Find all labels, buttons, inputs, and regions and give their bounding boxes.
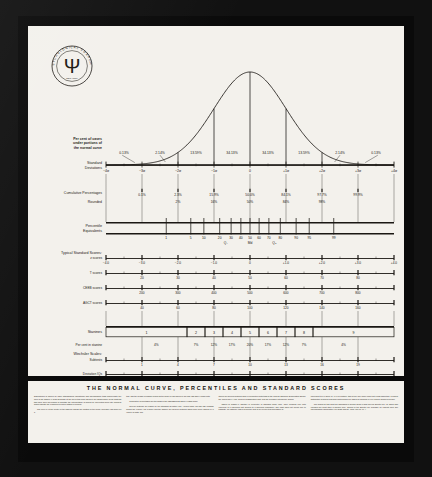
sd-tick-label: +2σ <box>319 169 326 173</box>
CEEB_scores-tick-label: 200 <box>139 291 145 295</box>
percentile-tick-label: 95 <box>307 236 311 240</box>
z_scores-tick-label: +4.0 <box>391 261 398 265</box>
footer-paragraph: The scales on this chart are discussed i… <box>311 403 398 411</box>
percentile-tick-label: 30 <box>229 236 233 240</box>
AGCT_scores-tick-label: 120 <box>283 306 289 310</box>
stanines-row-label: Stanines <box>88 330 103 334</box>
CEEB_scores-tick-label: 700 <box>319 291 325 295</box>
pct-band-label: 2.14% <box>155 151 165 155</box>
T_scores-tick-label: 50 <box>248 276 252 280</box>
normal-curve-chart: THE PSYCHOLOGICAL CORPORATIONΨ· NEW YORK… <box>28 26 404 376</box>
pct-band-label: 34.13% <box>226 151 238 155</box>
pct-band-label: 13.59% <box>190 151 202 155</box>
stanine-box-label: 2 <box>195 331 197 335</box>
T_scores-tick-label: 30 <box>176 276 180 280</box>
z_scores-tick-label: −2.0 <box>175 261 182 265</box>
row-label: Rounded <box>88 200 102 204</box>
stanine-percent-label: 7% <box>302 343 307 347</box>
stanine-box-label: 1 <box>146 331 148 335</box>
percentile-tick-label: 10 <box>202 236 206 240</box>
sd-tick-label: −4σ <box>103 169 110 173</box>
z_scores-tick-label: +2.0 <box>319 261 326 265</box>
z_scores-tick-label: −1.0 <box>211 261 218 265</box>
rounded-tick-label: 98% <box>319 200 326 204</box>
percentile-tick-label: 5 <box>190 236 192 240</box>
AGCT_scores-tick-label: 140 <box>319 306 325 310</box>
footer-paragraph: others are special systems used in conne… <box>219 395 306 401</box>
percentile-tick-label: 60 <box>257 236 261 240</box>
percentile-tick-label: 80 <box>278 236 282 240</box>
pct-band-label: 34.13% <box>262 151 274 155</box>
wechsler_subtests-tick-label: 1 <box>141 363 143 367</box>
stanine-box-label: 3 <box>213 331 215 335</box>
T_scores-row-label: T scores <box>90 271 103 275</box>
sd-tick-label: +1σ <box>283 169 290 173</box>
cum-tick-label: 2.3% <box>174 193 182 197</box>
footer-paragraph: The zero (0) at the center of the baseli… <box>34 408 121 414</box>
sd-tick-label: +4σ <box>391 169 398 173</box>
logo-established: · NEW YORK · <box>65 77 79 79</box>
footer-column: equivalent to a z-score of +1.0 on anoth… <box>311 395 398 416</box>
wechsler_subtests-row-label: Subtests <box>90 358 103 362</box>
cum-tick-label: 97.7% <box>317 193 326 197</box>
stanine-percent-label: 4% <box>154 343 159 347</box>
percentile-tick-label: 20 <box>218 236 222 240</box>
rounded-tick-label: 16% <box>211 200 218 204</box>
cum-tick-label: 99.9% <box>353 193 362 197</box>
cum-tick-label: 84.1% <box>281 193 290 197</box>
percentile-quartile-label: Md <box>248 241 253 245</box>
pct-band-label: 0.13% <box>371 151 381 155</box>
wechsler_subtests-tick-label: 13 <box>284 363 288 367</box>
footer-paragraph: Tables of NORMAL whether in percentile o… <box>219 403 306 411</box>
typical-standard-scores-header: Typical Standard Scores: <box>61 251 102 255</box>
stanine-box-label: 9 <box>353 331 355 335</box>
T_scores-tick-label: 60 <box>284 276 288 280</box>
stanine-percent-label: 7% <box>194 343 199 347</box>
CEEB_scores-row-label: CEEB scores <box>83 286 102 290</box>
percentile-tick-label: 1 <box>165 236 167 240</box>
footer-column: test, and the symbol σ (sigma) marks off… <box>126 395 213 416</box>
sd-tick-label: −1σ <box>211 169 218 173</box>
percentile-quartile-label: Q₃ <box>272 241 277 245</box>
pct-band-label: 2.14% <box>335 151 345 155</box>
z_scores-tick-label: +1.0 <box>283 261 290 265</box>
footer-paragraph: Distributions of scores on many standard… <box>34 395 121 406</box>
pct-band-label: 13.59% <box>298 151 310 155</box>
AGCT_scores-tick-label: 100 <box>247 306 253 310</box>
CEEB_scores-tick-label: 400 <box>211 291 217 295</box>
z_scores-tick-label: −3.0 <box>139 261 146 265</box>
sd-row-label: Deviations <box>85 166 102 170</box>
sd-tick-label: +3σ <box>355 169 362 173</box>
leader-line <box>122 155 135 162</box>
sd-tick-label: 0 <box>249 169 251 173</box>
logo-ring-text: THE PSYCHOLOGICAL CORPORATION <box>28 26 93 66</box>
row-label: Cumulative Percentages <box>64 191 102 195</box>
rounded-tick-label: 50% <box>247 200 254 204</box>
poster-root: THE PSYCHOLOGICAL CORPORATIONΨ· NEW YORK… <box>0 0 432 477</box>
AGCT_scores-tick-label: 160 <box>355 306 361 310</box>
AGCT_scores-tick-label: 80 <box>212 306 216 310</box>
pct-eq-row-label: Equivalents <box>83 229 102 233</box>
z_scores-tick-label: +3.0 <box>355 261 362 265</box>
stanine-percent-label: 17% <box>229 343 236 347</box>
cum-tick-label: 15.9% <box>209 193 218 197</box>
per-cent-in-stanine-row-label: Per cent in stanine <box>76 343 103 347</box>
leader-line <box>365 155 378 162</box>
pct-eq-row-label: Percentile <box>86 224 102 228</box>
stanine-box-label: 4 <box>231 331 233 335</box>
footer-paragraph: Cumulative percentages are the basis of … <box>126 400 213 403</box>
stanine-box-label: 7 <box>285 331 287 335</box>
CEEB_scores-tick-label: 600 <box>283 291 289 295</box>
wechsler_subtests-tick-label: 4 <box>177 363 179 367</box>
pct-row-label: under portions of <box>73 141 103 145</box>
stanine-box-label: 6 <box>267 331 269 335</box>
wechsler_subtests-tick-label: 10 <box>248 363 252 367</box>
stanine-box-label: 5 <box>249 331 251 335</box>
pct-band-label: 0.13% <box>119 151 129 155</box>
chart-sheet: THE PSYCHOLOGICAL CORPORATIONΨ· NEW YORK… <box>28 26 404 376</box>
stanine-percent-label: 17% <box>265 343 272 347</box>
percentile-tick-label: 40 <box>239 236 243 240</box>
percentile-tick-label: 50 <box>248 236 252 240</box>
deviation_iqs-row-label: Deviation IQs <box>83 372 103 376</box>
percentile-tick-label: 90 <box>294 236 298 240</box>
